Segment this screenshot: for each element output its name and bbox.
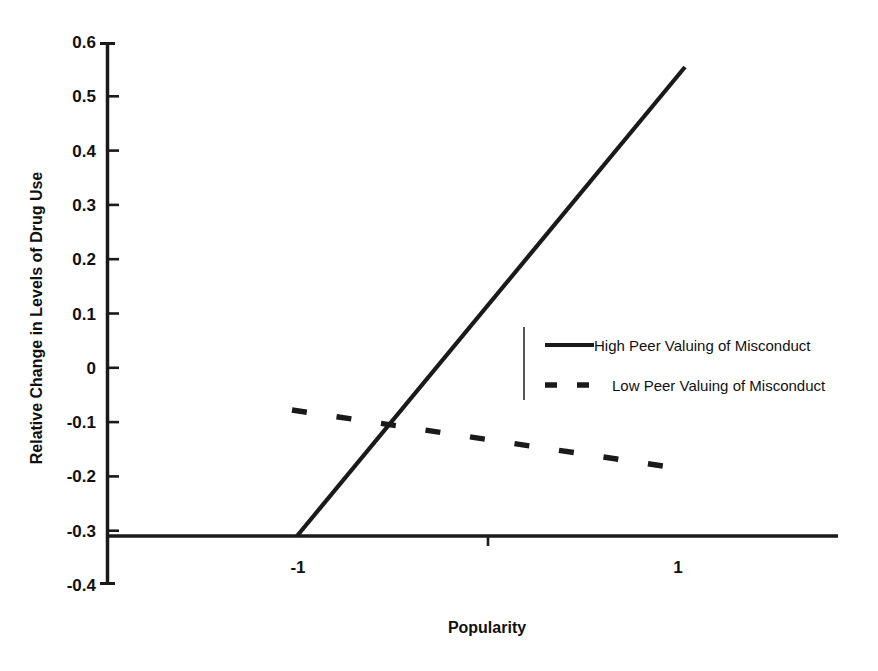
y-tick-label-2: 0.4 xyxy=(72,142,96,161)
y-axis-title: Relative Change in Levels of Drug Use xyxy=(28,172,45,465)
y-tick-label-9: -0.3 xyxy=(67,522,96,541)
y-tick-label-0: 0.6 xyxy=(72,33,96,52)
y-tick-label-4: 0.2 xyxy=(72,250,96,269)
y-tick-label-7: -0.1 xyxy=(67,413,96,432)
y-tick-label-3: 0.3 xyxy=(72,196,96,215)
chart-figure: 0.6 0.5 0.4 0.3 0.2 0.1 0 -0.1 -0.2 -0.3… xyxy=(0,0,878,671)
series-line-high-peer-valuing xyxy=(297,67,685,536)
y-tick-label-8: -0.2 xyxy=(67,467,96,486)
y-tick-label-6: 0 xyxy=(87,359,96,378)
line-chart: 0.6 0.5 0.4 0.3 0.2 0.1 0 -0.1 -0.2 -0.3… xyxy=(0,0,878,671)
y-tick-label-1: 0.5 xyxy=(72,87,96,106)
chart-legend: High Peer Valuing of Misconduct Low Peer… xyxy=(524,327,826,400)
legend-label-high-peer-valuing: High Peer Valuing of Misconduct xyxy=(594,337,811,354)
y-tick-label-5: 0.1 xyxy=(72,305,96,324)
x-tick-label-right: 1 xyxy=(673,558,682,577)
x-axis-title: Popularity xyxy=(448,619,526,636)
x-tick-label-left: -1 xyxy=(290,558,305,577)
series-line-low-peer-valuing xyxy=(292,410,663,466)
y-tick-label-10: -0.4 xyxy=(67,576,97,595)
legend-label-low-peer-valuing: Low Peer Valuing of Misconduct xyxy=(612,377,826,394)
